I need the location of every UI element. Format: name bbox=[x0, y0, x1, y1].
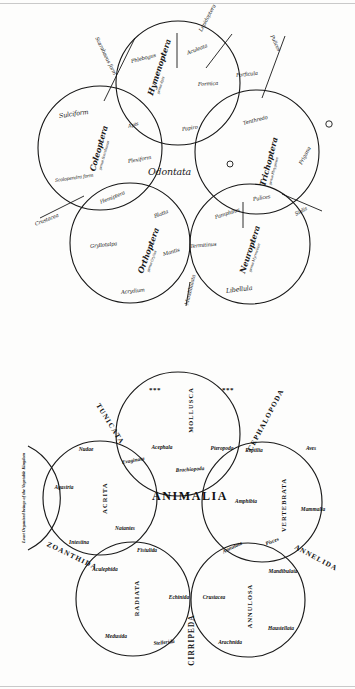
label-agastria: Agastria bbox=[55, 484, 74, 490]
page-rule-top bbox=[0, 3, 355, 4]
marker-mollusca-left: *** bbox=[149, 386, 161, 394]
label-arachnida: Arachnida bbox=[218, 639, 242, 645]
label-aves: Aves bbox=[306, 445, 316, 451]
label-natantes: Natantes bbox=[115, 525, 135, 531]
label-junction-cirripeda: CIRRIPEDA bbox=[188, 614, 196, 666]
label-nudae: Nudae bbox=[79, 446, 94, 452]
label-fistulida: Fistulida bbox=[137, 547, 157, 553]
label-circle-vertebrata: VERTEBRATA bbox=[280, 478, 287, 532]
label-circle-radiata: RADIATA bbox=[133, 580, 140, 617]
label-amphibia: Amphibia bbox=[235, 498, 257, 504]
odontata-center-label: Odontata bbox=[148, 166, 191, 177]
marker-mollusca-right: *** bbox=[222, 386, 234, 394]
animalia-diagram: MOLLUSCA *** *** Acephala Pteropoda Brac… bbox=[0, 350, 355, 686]
label-circle-acrita: ACRITA bbox=[101, 482, 108, 513]
page-rule-bottom bbox=[0, 686, 355, 687]
label-medusida: Medusida bbox=[105, 633, 127, 639]
circle-orthoptera bbox=[70, 183, 190, 303]
node-marker-right bbox=[326, 121, 332, 127]
odontata-diagram: Hymenoptera genus Apis Phlebogus Aculeat… bbox=[0, 6, 355, 346]
label-haustellata: Haustellata bbox=[268, 625, 294, 631]
label-circle-annulosa: ANNULOSA bbox=[246, 584, 253, 629]
node-marker-center bbox=[227, 161, 233, 167]
label-echinida: Echinida bbox=[169, 594, 189, 600]
label-intestina: Intestina bbox=[69, 539, 89, 545]
animalia-title: ANIMALIA bbox=[152, 489, 228, 504]
label-formica: Formica bbox=[198, 80, 218, 87]
label-circle-mollusca: MOLLUSCA bbox=[187, 387, 194, 433]
label-vegetable-kingdom-note: Least Organized beings of the Vegetable … bbox=[21, 453, 26, 543]
label-acephala: Acephala bbox=[152, 444, 173, 450]
label-mammalia: Mammalia bbox=[301, 506, 325, 512]
label-mandibulata: Mandibulata bbox=[269, 568, 298, 574]
label-crustacea: Crustacea bbox=[203, 594, 225, 600]
scanned-page: Hymenoptera genus Apis Phlebogus Aculeat… bbox=[0, 0, 355, 689]
animalia-circles bbox=[0, 350, 355, 686]
label-pteropoda: Pteropoda bbox=[211, 445, 234, 451]
